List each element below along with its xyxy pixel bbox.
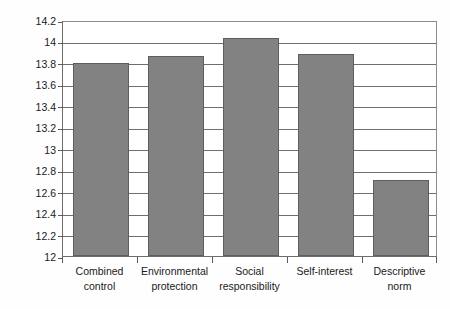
bar[interactable] bbox=[223, 38, 279, 256]
x-axis-tickmark bbox=[287, 257, 288, 263]
bar-slot bbox=[363, 22, 438, 256]
x-axis-category-labels: CombinedcontrolEnvironmentalprotectionSo… bbox=[62, 264, 437, 308]
bar-slot bbox=[63, 22, 138, 256]
x-axis-label-line: protection bbox=[137, 279, 212, 294]
x-axis-tickmark bbox=[137, 257, 138, 263]
y-axis-tick-label: 12.8 bbox=[16, 165, 56, 177]
bar-slot bbox=[213, 22, 288, 256]
bar[interactable] bbox=[73, 63, 129, 256]
y-axis-tick-label: 12 bbox=[16, 251, 56, 263]
x-axis-label-line: control bbox=[62, 279, 137, 294]
x-axis-tickmarks bbox=[62, 257, 437, 263]
x-axis-label-line: Social bbox=[212, 264, 287, 279]
y-axis-tick-label: 13.4 bbox=[16, 101, 56, 113]
x-axis-tickmark bbox=[212, 257, 213, 263]
x-axis-label-line: Combined bbox=[62, 264, 137, 279]
y-axis-tick-label: 12.6 bbox=[16, 187, 56, 199]
x-axis-tickmark bbox=[436, 257, 437, 263]
x-axis-tickmark bbox=[62, 257, 63, 263]
bars-layer bbox=[63, 22, 436, 256]
y-axis-tick-label: 13.2 bbox=[16, 122, 56, 134]
y-axis-tick-labels: 1212.212.412.612.81313.213.413.613.81414… bbox=[16, 14, 56, 264]
x-axis-label-line: Self-interest bbox=[287, 264, 362, 279]
x-axis-category-label: Self-interest bbox=[287, 264, 362, 279]
y-axis-tick-label: 13.6 bbox=[16, 79, 56, 91]
bar-chart: Average kilowatt hours per day 1212.212.… bbox=[0, 0, 450, 309]
bar[interactable] bbox=[298, 54, 354, 256]
y-axis-tick-label: 12.4 bbox=[16, 208, 56, 220]
bar[interactable] bbox=[148, 56, 204, 256]
bar-slot bbox=[138, 22, 213, 256]
x-axis-label-line: norm bbox=[362, 279, 437, 294]
y-axis-tick-label: 13 bbox=[16, 144, 56, 156]
x-axis-label-line: Environmental bbox=[137, 264, 212, 279]
x-axis-category-label: Environmentalprotection bbox=[137, 264, 212, 294]
x-axis-category-label: Descriptivenorm bbox=[362, 264, 437, 294]
x-axis-category-label: Socialresponsibility bbox=[212, 264, 287, 294]
x-axis-label-line: responsibility bbox=[212, 279, 287, 294]
x-axis-tickmark bbox=[362, 257, 363, 263]
plot-area bbox=[62, 21, 437, 257]
x-axis-label-line: Descriptive bbox=[362, 264, 437, 279]
y-axis-tick-label: 14.2 bbox=[16, 15, 56, 27]
y-axis-tick-label: 12.2 bbox=[16, 230, 56, 242]
y-axis-tick-label: 13.8 bbox=[16, 58, 56, 70]
bar-slot bbox=[288, 22, 363, 256]
y-axis-tick-label: 14 bbox=[16, 36, 56, 48]
x-axis-category-label: Combinedcontrol bbox=[62, 264, 137, 294]
bar[interactable] bbox=[373, 180, 429, 256]
